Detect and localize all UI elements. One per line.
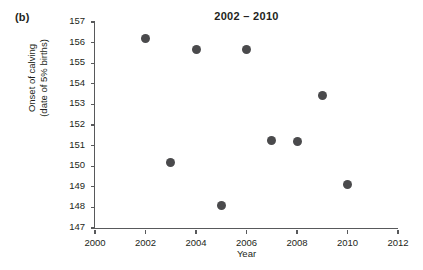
data-point xyxy=(242,45,251,54)
y-tick-mark xyxy=(91,186,95,187)
y-tick-label: 156 xyxy=(69,36,85,47)
x-tick-mark xyxy=(195,230,196,234)
data-point xyxy=(166,158,175,167)
y-tick-label: 157 xyxy=(69,15,85,26)
y-axis-title-line1: Onset of calving xyxy=(26,4,38,152)
x-tick-mark xyxy=(246,230,247,234)
x-tick-mark xyxy=(145,230,146,234)
x-tick-label: 2006 xyxy=(236,237,257,248)
y-tick-mark xyxy=(91,145,95,146)
chart-title: 2002 – 2010 xyxy=(95,10,398,22)
data-point xyxy=(318,91,327,100)
data-point xyxy=(141,34,150,43)
data-point xyxy=(293,137,302,146)
y-tick-label: 155 xyxy=(69,56,85,67)
x-tick-label: 2010 xyxy=(337,237,358,248)
y-tick-label: 148 xyxy=(69,200,85,211)
y-tick-label: 147 xyxy=(69,221,85,232)
data-point xyxy=(217,201,226,210)
x-tick-label: 2012 xyxy=(387,237,408,248)
y-tick-mark xyxy=(91,207,95,208)
y-tick-mark xyxy=(91,227,95,228)
plot-area: 147148149150151152153154155156157 200020… xyxy=(95,22,398,228)
y-tick-label: 152 xyxy=(69,118,85,129)
y-tick-label: 151 xyxy=(69,139,85,150)
y-tick-label: 153 xyxy=(69,97,85,108)
data-point xyxy=(267,136,276,145)
y-tick-mark xyxy=(91,124,95,125)
x-axis-title: Year xyxy=(95,248,398,259)
x-tick-mark xyxy=(296,230,297,234)
data-point xyxy=(192,45,201,54)
y-tick-label: 154 xyxy=(69,77,85,88)
y-tick-mark xyxy=(91,63,95,64)
y-tick-label: 149 xyxy=(69,180,85,191)
x-tick-label: 2000 xyxy=(84,237,105,248)
y-tick-label: 150 xyxy=(69,159,85,170)
y-axis-title-line2: (date of 5% births) xyxy=(38,4,50,152)
x-tick-label: 2008 xyxy=(286,237,307,248)
y-axis-title: Onset of calving (date of 5% births) xyxy=(26,4,50,152)
y-tick-mark xyxy=(91,21,95,22)
figure-panel-b: (b) 2002 – 2010 147148149150151152153154… xyxy=(0,0,423,270)
x-tick-mark xyxy=(397,230,398,234)
x-tick-mark xyxy=(94,230,95,234)
x-tick-label: 2002 xyxy=(135,237,156,248)
x-tick-mark xyxy=(347,230,348,234)
x-tick-label: 2004 xyxy=(185,237,206,248)
y-tick-mark xyxy=(91,42,95,43)
data-point xyxy=(343,180,352,189)
y-tick-mark xyxy=(91,166,95,167)
y-tick-mark xyxy=(91,104,95,105)
y-tick-mark xyxy=(91,83,95,84)
